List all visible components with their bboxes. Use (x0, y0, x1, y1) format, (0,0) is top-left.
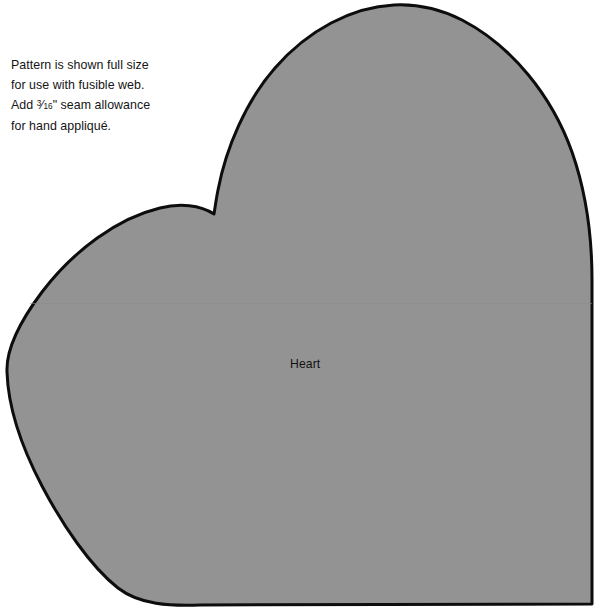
seam-allowance-fraction: 3⁄16 (37, 98, 53, 112)
pattern-sheet: Pattern is shown full size for use with … (0, 0, 602, 616)
fraction-denominator: 16 (43, 102, 52, 111)
pattern-instructions-text: Pattern is shown full size for use with … (11, 55, 163, 136)
heart-piece-label: Heart (290, 357, 320, 371)
